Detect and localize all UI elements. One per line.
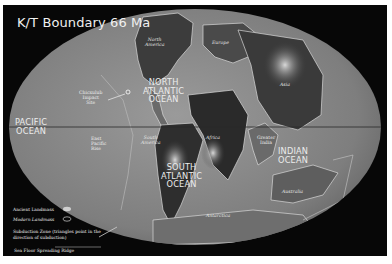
antarctica-label: Antarctica <box>206 214 230 219</box>
label-line: America <box>141 141 160 146</box>
legend-ancient-landmass: Ancient Landmass <box>13 207 54 212</box>
label-line: America <box>145 43 164 48</box>
north-america-label: North America <box>145 38 164 48</box>
globe-map <box>3 5 387 256</box>
map-title: K/T Boundary 66 Ma <box>17 15 150 30</box>
australia-label: Australia <box>282 190 303 195</box>
chicxulub-impact-site-label: Chicxulub Impact Site <box>79 91 102 105</box>
asia-label: Asia <box>280 83 290 88</box>
greater-india-label: Greater India <box>257 136 275 146</box>
africa-label: Africa <box>206 136 220 141</box>
pacific-ocean-label: PACIFIC OCEAN <box>15 118 47 135</box>
legend-subduction-zone-note: direction of subduction) <box>13 235 66 240</box>
south-america-label: South America <box>141 136 160 146</box>
label-line: OCEAN <box>143 95 184 104</box>
europe-label: Europe <box>212 41 229 46</box>
label-line: OCEAN <box>161 180 202 189</box>
label-line: Site <box>79 101 102 106</box>
legend-spreading-ridge: Sea Floor Spreading Ridge <box>14 248 74 253</box>
east-pacific-rise-label: East Pacific Rise <box>91 137 106 151</box>
south-atlantic-ocean-label: SOUTH ATLANTIC OCEAN <box>161 163 202 189</box>
legend-modern-landmass: Modern Landmass <box>13 217 54 222</box>
ancient-landmass-swatch <box>63 207 71 211</box>
indian-ocean-label: INDIAN OCEAN <box>278 147 308 164</box>
label-line: OCEAN <box>278 156 308 165</box>
label-line: India <box>257 141 275 146</box>
map-panel: K/T Boundary 66 Ma PACIFIC OCEAN NORTH A… <box>3 5 387 256</box>
label-line: Rise <box>91 147 106 152</box>
modern-landmass-swatch <box>63 217 71 221</box>
legend-subduction-zone: Subduction Zone (triangles point in the <box>13 229 101 234</box>
north-atlantic-ocean-label: NORTH ATLANTIC OCEAN <box>143 78 184 104</box>
label-line: OCEAN <box>15 127 47 136</box>
